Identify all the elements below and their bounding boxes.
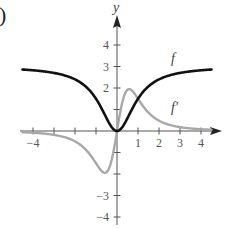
y-axis-label: y <box>111 0 120 15</box>
f-prime-curve-label: f′ <box>171 100 179 115</box>
y-tick-label: 4 <box>103 38 109 52</box>
y-tick-label: 2 <box>103 81 109 95</box>
x-tick-label: −4 <box>27 136 40 150</box>
panel-label: ) <box>0 2 6 27</box>
x-tick-label: 4 <box>198 136 204 150</box>
x-tick-label: 1 <box>135 136 141 150</box>
axes <box>20 15 222 225</box>
y-tick-label: −3 <box>96 189 109 203</box>
x-tick-label: 2 <box>156 136 162 150</box>
y-tick-label: −4 <box>96 210 109 224</box>
x-tick-label: 3 <box>177 136 183 150</box>
f-curve-label: f <box>171 51 177 66</box>
y-tick-label: 3 <box>103 60 109 74</box>
chart: ) −41234432−3−4 y f f′ <box>0 0 229 229</box>
